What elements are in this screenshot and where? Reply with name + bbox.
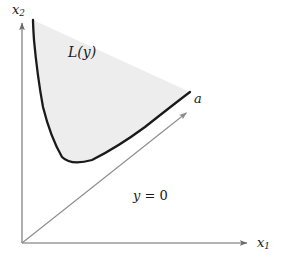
y-axis-label: x2: [12, 3, 25, 18]
level-set-region-fill: [33, 20, 190, 162]
direction-vector-label: a: [194, 92, 202, 105]
zero-level-lhs: y: [133, 188, 140, 203]
zero-level-equals: =: [145, 188, 156, 203]
level-set-region-label-paren-close: ): [91, 44, 96, 60]
level-set-region-label-arg: y: [83, 44, 91, 60]
y-axis-label-subscript: 2: [19, 8, 25, 18]
figure-canvas: x2 x1 L(y) a y = 0: [0, 0, 285, 261]
level-set-region-label-base: L: [68, 44, 77, 60]
x-axis-label: x1: [257, 236, 270, 251]
figure-graphic: [0, 0, 285, 261]
zero-level-rhs: 0: [160, 188, 168, 203]
x-axis-label-subscript: 1: [264, 241, 270, 251]
zero-level-annotation: y = 0: [133, 189, 168, 202]
level-set-region-label: L(y): [68, 45, 96, 59]
